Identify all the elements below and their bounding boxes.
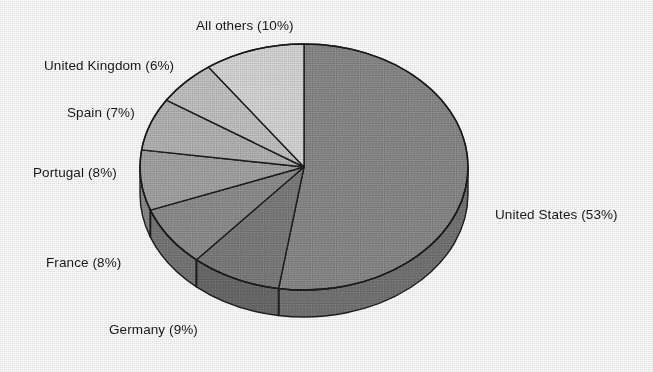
pie-slice-label-france: France (8%) bbox=[46, 255, 121, 271]
pie-slice-label-germany: Germany (9%) bbox=[109, 322, 198, 338]
pie-slice-label-united-kingdom: United Kingdom (6%) bbox=[44, 58, 174, 74]
pie-slice-label-united-states: United States (53%) bbox=[495, 207, 618, 223]
pie-slice-label-all-others: All others (10%) bbox=[196, 18, 294, 34]
pie-slice-label-portugal: Portugal (8%) bbox=[33, 165, 117, 181]
pie-chart-figure: All others (10%) United Kingdom (6%) Spa… bbox=[0, 0, 653, 372]
pie-chart-canvas bbox=[0, 0, 653, 372]
pie-slice-label-spain: Spain (7%) bbox=[67, 105, 135, 121]
pie-texture-overlay bbox=[140, 44, 468, 317]
